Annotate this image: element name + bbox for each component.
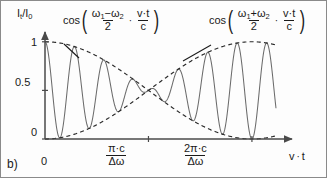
x-tick-label-pi: π·cΔω	[105, 143, 128, 167]
paren-close: )	[154, 10, 159, 31]
paren-open: (	[228, 10, 233, 31]
cos-label: cos	[209, 14, 226, 26]
envelope-formula: cos ( ω1−ω2 2 · v·t c )	[63, 8, 161, 32]
curve-group	[45, 42, 276, 139]
vtc-fraction: v·t c	[135, 8, 151, 32]
y-tick-label-0p5: 0.5	[15, 77, 30, 88]
intensity-curve	[45, 42, 276, 139]
y-tick-label-1: 1	[31, 37, 37, 48]
leader-lines	[64, 44, 211, 61]
y-tick-label-0: 0	[31, 127, 37, 138]
paren-close: )	[300, 10, 305, 31]
upper-envelope-curve	[45, 42, 276, 139]
axes-group	[45, 32, 292, 139]
x-tick-label-2pi: 2π·cΔω	[181, 143, 210, 167]
figure-panel: It/I0 1 0.5 0 b) 0 π·cΔω 2π·cΔω v·t cos …	[0, 0, 327, 178]
vtc-fraction: v·t c	[281, 8, 297, 32]
cos-label: cos	[63, 14, 80, 26]
y-axis-title: It/I0	[17, 8, 32, 19]
carrier-numerator: ω1+ω2	[236, 8, 272, 20]
envelope-denominator: 2	[103, 20, 113, 33]
x-origin-label: 0	[41, 156, 47, 167]
lower-envelope-curve	[45, 42, 276, 139]
carrier-denominator: 2	[249, 20, 259, 33]
carrier-formula: cos ( ω1+ω2 2 · v·t c )	[209, 8, 307, 32]
multiply-dot: ·	[275, 15, 278, 26]
paren-open: (	[82, 10, 87, 31]
panel-label: b)	[7, 158, 18, 170]
multiply-dot: ·	[129, 15, 132, 26]
carrier-fraction: ω1+ω2 2	[236, 8, 272, 32]
envelope-numerator: ω1−ω2	[90, 8, 126, 20]
x-axis-title: v·t	[289, 151, 305, 162]
envelope-fraction: ω1−ω2 2	[90, 8, 126, 32]
